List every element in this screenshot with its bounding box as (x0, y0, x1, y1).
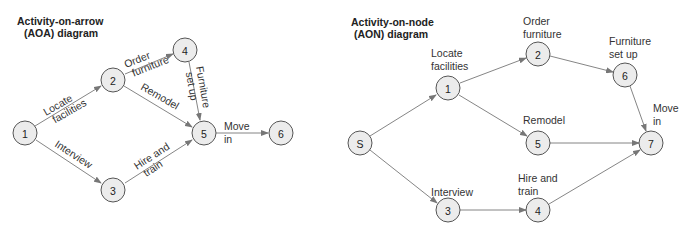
svg-text:4: 4 (182, 45, 188, 57)
aoa-label-locate-facilities: Locate facilities (41, 87, 88, 128)
aon-label-order-furniture: Order furniture (523, 15, 562, 40)
aon-node-5: 5 (526, 131, 550, 155)
aoa-title-line2: (AOA) diagram (24, 27, 98, 39)
svg-text:in: in (653, 115, 661, 127)
aon-node-1: 1 (436, 76, 460, 100)
svg-text:Move: Move (653, 102, 679, 114)
aoa-title-line1: Activity-on-arrow (17, 15, 104, 27)
aon-title-line1: Activity-on-node (351, 16, 434, 28)
svg-text:Furniture: Furniture (609, 35, 651, 47)
svg-text:3: 3 (445, 205, 451, 217)
aon-node-S: S (348, 131, 372, 155)
svg-text:facilities: facilities (431, 60, 468, 72)
aoa-node-6: 6 (269, 121, 293, 145)
svg-text:furniture: furniture (523, 28, 562, 40)
aon-label-locate-facilities: Locate facilities (431, 47, 468, 72)
svg-text:Interview: Interview (431, 186, 473, 198)
aoa-node-5: 5 (192, 121, 216, 145)
aon-node-3: 3 (436, 198, 460, 222)
svg-text:Remodel: Remodel (139, 80, 181, 111)
aoa-label-move-in: Move in (224, 120, 250, 145)
aon-edge-S-1 (370, 95, 436, 136)
aoa-label-order-furniture: Order furniture (122, 43, 170, 80)
aon-edge-1-2 (460, 58, 526, 83)
aon-node-6: 6 (613, 63, 637, 87)
network-diagrams: Activity-on-arrow (AOA) diagram Locate f… (0, 0, 693, 232)
aoa-node-3: 3 (101, 178, 125, 202)
svg-text:train: train (518, 185, 539, 197)
aoa-label-remodel: Remodel (139, 80, 181, 111)
aon-label-move-in: Move in (653, 102, 679, 127)
svg-text:Order: Order (523, 15, 550, 27)
aon-edge-1-5 (459, 95, 527, 136)
svg-text:Interview: Interview (53, 138, 95, 171)
svg-text:Hire and: Hire and (518, 172, 558, 184)
svg-text:1: 1 (445, 83, 451, 95)
aon-label-interview: Interview (431, 186, 473, 198)
aoa-node-1: 1 (13, 121, 37, 145)
svg-text:2: 2 (110, 75, 116, 87)
aon-title-line2: (AON) diagram (354, 28, 428, 40)
svg-text:2: 2 (535, 49, 541, 61)
svg-text:3: 3 (110, 185, 116, 197)
svg-text:Remodel: Remodel (523, 114, 565, 126)
svg-text:S: S (356, 138, 363, 150)
svg-text:1: 1 (22, 128, 28, 140)
svg-text:4: 4 (535, 205, 541, 217)
svg-text:5: 5 (535, 138, 541, 150)
svg-text:7: 7 (648, 138, 654, 150)
aon-edge-6-7 (630, 86, 646, 131)
svg-text:6: 6 (278, 128, 284, 140)
aoa-label-interview: Interview (53, 138, 95, 171)
aon-label-remodel: Remodel (523, 114, 565, 126)
aon-label-furniture-setup: Furniture set up (609, 35, 651, 60)
aon-edge-2-6 (550, 56, 613, 72)
svg-text:set up: set up (609, 48, 638, 60)
aon-diagram: Activity-on-node (AON) diagram Locate fa… (348, 15, 679, 222)
svg-text:in: in (224, 133, 232, 145)
aoa-diagram: Activity-on-arrow (AOA) diagram Locate f… (13, 15, 293, 202)
aon-edge-4-7 (549, 150, 640, 204)
svg-text:6: 6 (622, 70, 628, 82)
aon-node-2: 2 (526, 42, 550, 66)
svg-text:5: 5 (201, 128, 207, 140)
aon-label-hire-and-train: Hire and train (518, 172, 558, 197)
aon-node-4: 4 (526, 198, 550, 222)
svg-text:Locate: Locate (431, 47, 463, 59)
aon-edge-S-3 (370, 150, 437, 203)
aoa-node-4: 4 (173, 38, 197, 62)
aoa-label-furniture-setup: Furniture set up (183, 65, 213, 111)
aoa-node-2: 2 (101, 68, 125, 92)
svg-text:Move: Move (224, 120, 250, 132)
aon-node-7: 7 (639, 131, 663, 155)
